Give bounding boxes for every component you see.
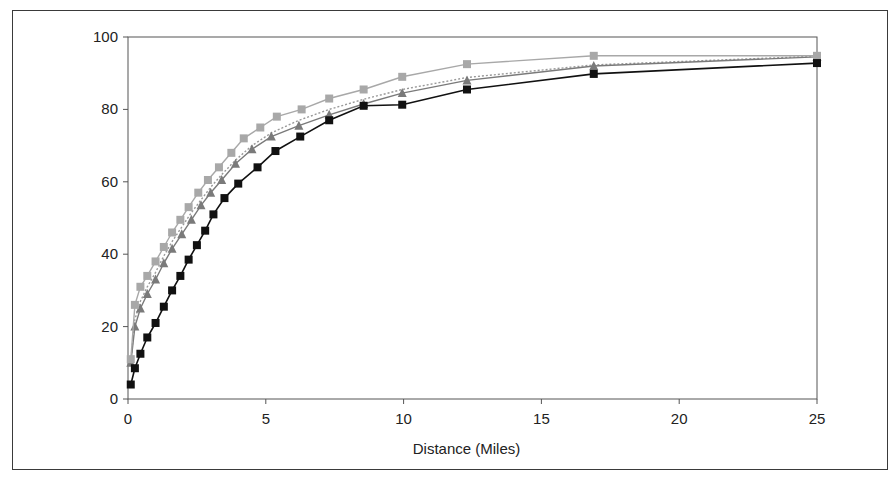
x-tick-label: 0 (124, 410, 132, 427)
data-point-marker (271, 147, 279, 155)
data-point-marker (136, 350, 144, 358)
x-tick-label: 20 (671, 410, 688, 427)
data-point-marker (590, 70, 598, 78)
data-point-marker (127, 355, 135, 363)
data-point-marker (131, 301, 139, 309)
y-axis: 020406080100 (93, 28, 128, 407)
data-point-marker (176, 216, 184, 224)
y-tick-label: 20 (101, 318, 118, 335)
data-point-marker (220, 194, 228, 202)
data-point-marker (176, 272, 184, 280)
data-point-marker (463, 85, 471, 93)
line-chart: 020406080100 0510152025 Distance (Miles) (0, 0, 895, 480)
data-point-marker (398, 73, 406, 81)
data-point-marker (256, 124, 264, 132)
data-point-marker (325, 95, 333, 103)
data-point-marker (131, 364, 139, 372)
data-point-marker (136, 283, 144, 291)
data-point-marker (463, 60, 471, 68)
data-point-marker (209, 210, 217, 218)
data-point-marker (254, 163, 262, 171)
x-tick-label: 10 (395, 410, 412, 427)
data-point-marker (325, 116, 333, 124)
data-point-marker (143, 272, 151, 280)
x-tick-label: 5 (262, 410, 270, 427)
data-point-marker (240, 134, 248, 142)
data-point-marker (127, 381, 135, 389)
x-tick-label: 15 (533, 410, 550, 427)
data-point-marker (185, 203, 193, 211)
data-point-marker (398, 101, 406, 109)
data-point-marker (168, 228, 176, 236)
y-tick-label: 40 (101, 245, 118, 262)
data-point-marker (201, 227, 209, 235)
y-tick-label: 60 (101, 173, 118, 190)
y-tick-label: 0 (110, 390, 118, 407)
data-point-marker (298, 105, 306, 113)
data-point-marker (215, 163, 223, 171)
data-point-marker (143, 333, 151, 341)
plot-area (128, 37, 817, 399)
data-point-marker (152, 319, 160, 327)
data-point-marker (152, 257, 160, 265)
data-point-marker (360, 102, 368, 110)
y-tick-label: 100 (93, 28, 118, 45)
data-point-marker (234, 180, 242, 188)
x-axis-title: Distance (Miles) (413, 440, 521, 457)
data-point-marker (160, 243, 168, 251)
data-point-marker (273, 113, 281, 121)
data-point-marker (227, 149, 235, 157)
y-tick-label: 80 (101, 100, 118, 117)
data-point-marker (204, 176, 212, 184)
x-axis: 0510152025 (124, 399, 826, 427)
data-point-marker (193, 241, 201, 249)
data-point-marker (360, 85, 368, 93)
data-point-marker (296, 133, 304, 141)
data-point-marker (194, 189, 202, 197)
data-point-marker (160, 303, 168, 311)
data-point-marker (168, 286, 176, 294)
data-point-marker (813, 59, 821, 67)
data-point-marker (590, 52, 598, 60)
data-point-marker (185, 256, 193, 264)
x-tick-label: 25 (809, 410, 826, 427)
data-point-marker (813, 52, 821, 60)
